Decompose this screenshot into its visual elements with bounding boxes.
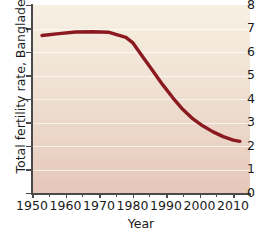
x-axis-minor-tick	[116, 193, 117, 197]
y-axis-tick-label: 2	[231, 140, 255, 153]
data-series-line	[32, 5, 250, 193]
fertility-rate-line-chart: 8 7 6 5 4 3 2 1 0 1950 1960 1970 1980 19…	[0, 0, 255, 236]
x-axis-minor-tick	[149, 193, 150, 197]
y-axis-title: Total fertility rate, Bangladesh	[13, 0, 28, 174]
y-axis-tick	[26, 193, 31, 195]
plot-area	[32, 5, 250, 193]
y-axis-tick-label: 8	[231, 0, 255, 11]
y-axis-tick-label: 1	[231, 163, 255, 176]
y-axis-line	[31, 4, 33, 194]
y-axis-tick-label: 7	[231, 22, 255, 35]
y-axis-tick-label: 4	[231, 93, 255, 106]
x-axis-minor-tick	[216, 193, 217, 197]
x-axis-minor-tick	[183, 193, 184, 197]
y-axis-tick-label: 5	[231, 69, 255, 82]
x-axis-tick-label: 2010	[213, 200, 253, 213]
y-axis-tick-label: 6	[231, 46, 255, 59]
x-axis-minor-tick	[250, 193, 251, 197]
x-axis-minor-tick	[82, 193, 83, 197]
y-axis-tick-label: 3	[231, 116, 255, 129]
x-axis-minor-tick	[49, 193, 50, 197]
x-axis-title: Year	[32, 216, 250, 231]
